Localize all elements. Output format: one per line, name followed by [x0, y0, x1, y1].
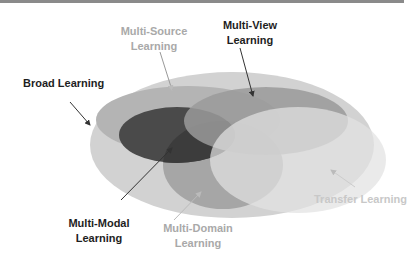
label-transfer-learning: Transfer Learning [314, 192, 407, 207]
label-multi-modal-learning: Multi-Modal Learning [66, 216, 132, 246]
label-broad-learning: Broad Learning [23, 76, 104, 91]
arrow-broad [70, 102, 90, 125]
label-multi-view-learning: Multi-View Learning [222, 18, 278, 48]
label-multi-domain-learning: Multi-Domain Learning [163, 221, 233, 251]
label-multi-source-learning: Multi-Source Learning [118, 24, 190, 54]
